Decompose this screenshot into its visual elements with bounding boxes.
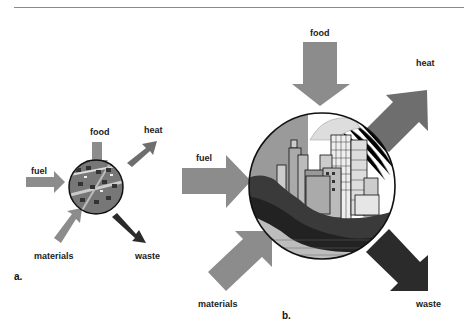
panel-a-town-illustration	[69, 160, 123, 214]
panel-a-waste-arrow-icon	[112, 213, 146, 243]
panel-b-fuel-arrow-icon	[182, 155, 251, 208]
panel-a-materials-label: materials	[34, 251, 74, 261]
panel-b-waste-arrow-icon	[366, 229, 428, 291]
panel-a-caption: a.	[14, 271, 22, 282]
panel-a-fuel-label: fuel	[31, 166, 47, 176]
panel-b-food-label: food	[310, 28, 330, 38]
panel-a-waste-label: waste	[135, 251, 160, 261]
panel-a-materials-arrow-icon	[54, 208, 82, 243]
panel-a-heat-arrow-icon	[127, 141, 157, 167]
panel-b-fuel-label: fuel	[196, 153, 212, 163]
panel-b-waste-label: waste	[416, 299, 441, 309]
panel-b-food-arrow-icon	[292, 42, 350, 106]
panel-b-caption: b.	[282, 310, 291, 321]
panel-b-heat-label: heat	[416, 58, 435, 68]
panel-b-materials-arrow-icon	[208, 231, 272, 291]
panel-a-heat-label: heat	[144, 125, 163, 135]
diagram-canvas	[0, 0, 464, 334]
panel-a-food-label: food	[90, 127, 110, 137]
panel-b-materials-label: materials	[198, 299, 238, 309]
